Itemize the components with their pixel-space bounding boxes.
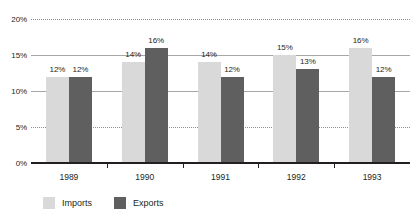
bar-exports-1990[interactable]: 16% <box>145 48 168 163</box>
bar-exports-1992[interactable]: 13% <box>296 69 319 163</box>
bar-rect[interactable] <box>69 77 92 163</box>
plot-area: 0%5%10%15%20% 12%12%14%16%14%12%15%13%16… <box>31 19 410 163</box>
y-axis-tick-label: 20% <box>11 15 27 24</box>
x-axis-tick <box>334 162 335 168</box>
y-axis-tick-label: 15% <box>11 51 27 60</box>
bar-rect[interactable] <box>46 77 69 163</box>
legend-item-imports[interactable]: Imports <box>43 197 92 209</box>
bar-rect[interactable] <box>221 77 244 163</box>
bar-rect[interactable] <box>145 48 168 163</box>
legend-swatch-exports <box>114 197 126 209</box>
bar-value-label: 12% <box>50 65 66 74</box>
bar-rect[interactable] <box>122 62 145 163</box>
x-axis-label-1993: 1993 <box>363 172 382 182</box>
x-axis-tick <box>183 162 184 168</box>
bar-value-label: 16% <box>353 36 369 45</box>
bar-rect[interactable] <box>273 55 296 163</box>
bar-imports-1990[interactable]: 14% <box>122 62 145 163</box>
bar-rect[interactable] <box>372 77 395 163</box>
bar-rect[interactable] <box>349 48 372 163</box>
bar-imports-1992[interactable]: 15% <box>273 55 296 163</box>
bar-rect[interactable] <box>296 69 319 163</box>
x-axis-label-1990: 1990 <box>135 172 154 182</box>
bar-value-label: 12% <box>73 65 89 74</box>
bar-value-label: 12% <box>224 65 240 74</box>
y-axis-tick-label: 10% <box>11 87 27 96</box>
bar-value-label: 12% <box>376 65 392 74</box>
grouped-bar-chart: 0%5%10%15%20% 12%12%14%16%14%12%15%13%16… <box>0 0 418 222</box>
bar-group-1990: 14%16% <box>122 48 168 163</box>
legend-label: Exports <box>133 198 164 208</box>
bar-imports-1993[interactable]: 16% <box>349 48 372 163</box>
x-axis-line <box>31 162 410 164</box>
chart-legend: ImportsExports <box>43 197 164 209</box>
y-axis-tick-label: 5% <box>16 123 27 132</box>
x-axis-tick <box>258 162 259 168</box>
bar-value-label: 15% <box>277 43 293 52</box>
bar-value-label: 14% <box>125 50 141 59</box>
x-axis-label-1991: 1991 <box>211 172 230 182</box>
bar-rect[interactable] <box>198 62 221 163</box>
legend-label: Imports <box>62 198 92 208</box>
x-axis-tick <box>107 162 108 168</box>
bar-group-1992: 15%13% <box>273 55 319 163</box>
bar-value-label: 13% <box>300 57 316 66</box>
bar-exports-1991[interactable]: 12% <box>221 77 244 163</box>
x-axis-label-1989: 1989 <box>59 172 78 182</box>
bar-value-label: 16% <box>148 36 164 45</box>
bar-exports-1989[interactable]: 12% <box>69 77 92 163</box>
x-axis-label-1992: 1992 <box>287 172 306 182</box>
bar-imports-1989[interactable]: 12% <box>46 77 69 163</box>
legend-swatch-imports <box>43 197 55 209</box>
y-axis-tick-label: 0% <box>16 159 27 168</box>
legend-item-exports[interactable]: Exports <box>114 197 164 209</box>
bar-group-1989: 12%12% <box>46 77 92 163</box>
bar-group-1991: 14%12% <box>198 62 244 163</box>
bar-imports-1991[interactable]: 14% <box>198 62 221 163</box>
gridline-20 <box>31 19 410 20</box>
bar-value-label: 14% <box>201 50 217 59</box>
bar-group-1993: 16%12% <box>349 48 395 163</box>
bar-exports-1993[interactable]: 12% <box>372 77 395 163</box>
